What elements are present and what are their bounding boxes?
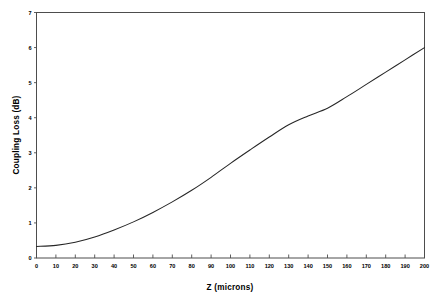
x-tick-label: 200 bbox=[420, 263, 429, 269]
chart-figure: 0102030405060708090100110120130140150160… bbox=[0, 0, 444, 305]
y-tick-label: 0 bbox=[28, 255, 31, 261]
x-tick-label: 190 bbox=[400, 263, 409, 269]
x-tick-label: 80 bbox=[189, 263, 195, 269]
x-tick-label: 100 bbox=[226, 263, 235, 269]
y-tick-label: 3 bbox=[28, 150, 31, 156]
x-axis-tick-labels: 0102030405060708090100110120130140150160… bbox=[35, 263, 429, 269]
x-tick-label: 180 bbox=[381, 263, 390, 269]
x-axis-ticks bbox=[37, 255, 425, 259]
y-axis-title: Coupling Loss (dB) bbox=[12, 95, 21, 174]
y-axis-tick-labels: 01234567 bbox=[28, 10, 32, 262]
x-tick-label: 110 bbox=[245, 263, 254, 269]
x-tick-label: 120 bbox=[265, 263, 274, 269]
x-tick-label: 0 bbox=[35, 263, 38, 269]
x-tick-label: 160 bbox=[342, 263, 351, 269]
x-tick-label: 130 bbox=[284, 263, 293, 269]
x-tick-label: 170 bbox=[362, 263, 371, 269]
y-tick-label: 6 bbox=[28, 45, 31, 51]
plot-frame bbox=[37, 13, 425, 259]
y-tick-label: 4 bbox=[28, 115, 32, 121]
x-tick-label: 90 bbox=[208, 263, 214, 269]
x-tick-label: 70 bbox=[169, 263, 175, 269]
data-series-group bbox=[37, 48, 425, 247]
y-tick-label: 5 bbox=[28, 80, 31, 86]
x-tick-label: 140 bbox=[303, 263, 312, 269]
y-tick-label: 7 bbox=[28, 10, 31, 16]
x-axis-title: Z (microns) bbox=[207, 283, 254, 292]
coupling-loss-curve bbox=[37, 48, 425, 247]
x-tick-label: 150 bbox=[323, 263, 332, 269]
x-tick-label: 10 bbox=[53, 263, 59, 269]
x-tick-label: 60 bbox=[150, 263, 156, 269]
x-tick-label: 40 bbox=[111, 263, 117, 269]
x-tick-label: 30 bbox=[92, 263, 98, 269]
x-tick-label: 50 bbox=[130, 263, 136, 269]
coupling-loss-line-chart: 0102030405060708090100110120130140150160… bbox=[0, 0, 444, 305]
x-tick-label: 20 bbox=[72, 263, 78, 269]
y-tick-label: 2 bbox=[28, 185, 31, 191]
y-tick-label: 1 bbox=[28, 220, 31, 226]
